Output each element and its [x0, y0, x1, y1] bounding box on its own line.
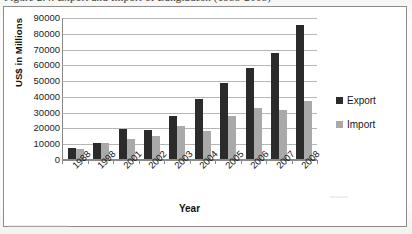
bar-group — [215, 18, 240, 159]
bar-group — [241, 18, 266, 159]
y-axis-tick-label: 20000 — [34, 124, 60, 134]
bar-export[interactable] — [169, 116, 177, 159]
legend-label: Export — [347, 95, 376, 106]
y-axis-tick-label: 80000 — [34, 29, 60, 39]
y-axis-tick-label: 0 — [55, 155, 60, 165]
y-axis-tick-label: 40000 — [34, 92, 60, 102]
bar-export[interactable] — [296, 25, 304, 159]
bar-group — [88, 18, 113, 159]
y-axis-tick-label: 70000 — [34, 45, 60, 55]
scan-smudge — [330, 196, 348, 198]
bar-group — [165, 18, 190, 159]
y-axis-tick-label: 50000 — [34, 76, 60, 86]
bar-export[interactable] — [144, 130, 152, 159]
bar-group — [139, 18, 164, 159]
y-axis-tick-label: 30000 — [34, 108, 60, 118]
chart-legend: ExportImport — [336, 95, 376, 130]
bar-group — [114, 18, 139, 159]
figure-page: Figure 2.4: Export and Import of Banglad… — [0, 0, 412, 234]
legend-item[interactable]: Export — [336, 95, 376, 106]
bar-group — [292, 18, 317, 159]
y-axis-tick-label: 60000 — [34, 61, 60, 71]
x-axis-tick-labels: 1988199820012002200320042005200620072008 — [62, 163, 317, 197]
bar-export[interactable] — [195, 99, 203, 159]
x-axis-title: Year — [62, 203, 317, 214]
y-axis-tick-label: 10000 — [34, 139, 60, 149]
figure-caption: Figure 2.4: Export and Import of Banglad… — [4, 0, 271, 3]
bar-groups — [63, 18, 317, 159]
legend-swatch-import-icon — [336, 121, 343, 128]
y-axis-tick-label: 90000 — [34, 13, 60, 23]
scan-smudge — [8, 225, 68, 227]
x-axis-tick — [317, 160, 318, 164]
legend-swatch-export-icon — [336, 97, 343, 104]
bar-export[interactable] — [271, 53, 279, 159]
bar-group — [266, 18, 291, 159]
y-axis-tick-labels: 0100002000030000400005000060000700008000… — [16, 18, 60, 160]
bar-group — [63, 18, 88, 159]
bar-group — [190, 18, 215, 159]
bar-export[interactable] — [246, 68, 254, 160]
bar-export[interactable] — [119, 129, 127, 159]
legend-item[interactable]: Import — [336, 119, 376, 130]
legend-label: Import — [347, 119, 375, 130]
bar-export[interactable] — [220, 83, 228, 159]
plot-area — [62, 18, 317, 160]
